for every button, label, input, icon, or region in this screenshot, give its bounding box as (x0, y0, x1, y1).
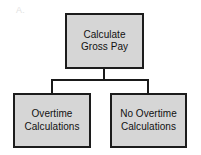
node-label: Overtime Calculations (22, 108, 81, 133)
node-no-overtime-calculations[interactable]: No Overtime Calculations (110, 93, 187, 148)
node-label: No Overtime Calculations (118, 108, 179, 133)
node-calculate-gross-pay[interactable]: Calculate Gross Pay (65, 13, 144, 69)
node-label: Calculate Gross Pay (79, 29, 130, 54)
connector-horizontal-bar (51, 79, 149, 81)
node-overtime-calculations[interactable]: Overtime Calculations (13, 93, 91, 148)
flowchart-canvas: A. Calculate Gross Pay Overtime Calculat… (0, 0, 201, 155)
connector-drop-left (51, 79, 53, 94)
figure-label: A. (16, 5, 25, 15)
connector-drop-right (147, 79, 149, 94)
